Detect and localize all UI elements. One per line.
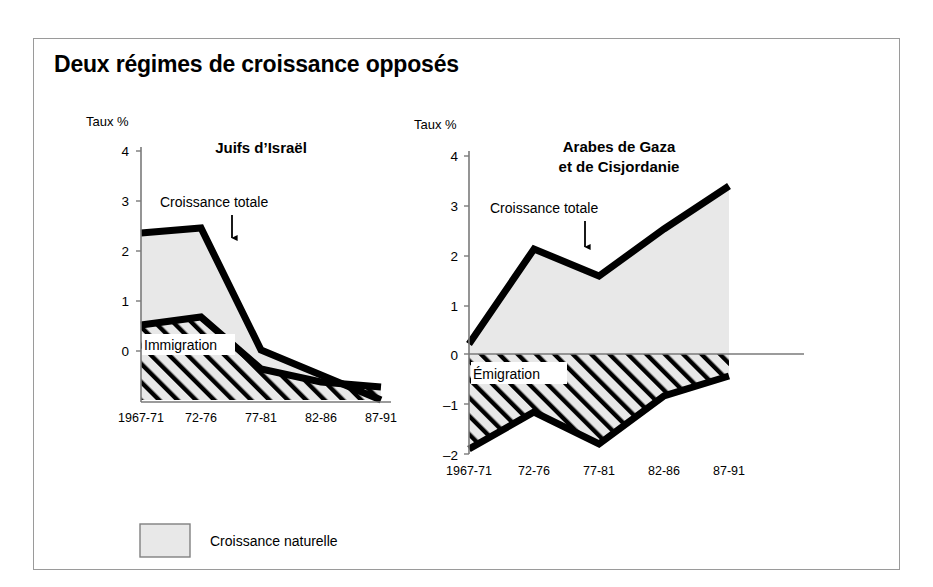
xtick-right-4: 87-91 (713, 464, 745, 478)
annotation-immigration-left: Immigration (144, 337, 217, 353)
y-axis-label-left: Taux % (86, 114, 129, 129)
ytick-right-4: 4 (450, 149, 458, 164)
chart-legend: Croissance naturelle (140, 524, 338, 557)
legend-label-natural-growth: Croissance naturelle (210, 533, 338, 549)
xtick-right-1: 72-76 (518, 464, 550, 478)
ytick-right-3: 3 (450, 199, 458, 214)
xtick-left-4: 87-91 (365, 411, 397, 425)
ytick-right-2: 2 (450, 249, 458, 264)
xtick-right-3: 82-86 (648, 464, 680, 478)
ytick-right-neg2: –2 (443, 448, 458, 463)
ytick-right-1: 1 (450, 299, 458, 314)
panel-juifs-israel: 4 3 2 1 0 Taux % Juifs d’Israël Croissan… (86, 114, 397, 425)
panel-title-right-line1: Arabes de Gaza (563, 138, 676, 155)
y-axis-label-right: Taux % (414, 117, 457, 132)
xtick-left-1: 72-76 (185, 411, 217, 425)
xtick-left-0: 1967-71 (118, 411, 164, 425)
ytick-right-neg1: –1 (443, 398, 458, 413)
ytick-left-1: 1 (121, 294, 129, 309)
xtick-left-2: 77-81 (245, 411, 277, 425)
annotation-total-growth-left: Croissance totale (160, 194, 268, 210)
panel-title-right-line2: et de Cisjordanie (559, 158, 680, 175)
ytick-left-0: 0 (121, 344, 129, 359)
legend-swatch-natural-growth (140, 524, 190, 557)
annotation-total-growth-right: Croissance totale (490, 200, 598, 216)
ytick-left-4: 4 (121, 144, 129, 159)
ytick-right-0: 0 (450, 348, 458, 363)
xtick-right-2: 77-81 (583, 464, 615, 478)
ytick-left-2: 2 (121, 244, 129, 259)
xtick-left-3: 82-86 (305, 411, 337, 425)
ytick-left-3: 3 (121, 194, 129, 209)
annotation-emigration-right: Émigration (473, 366, 540, 382)
chart-canvas: 4 3 2 1 0 Taux % Juifs d’Israël Croissan… (34, 39, 901, 571)
chart-figure: Deux régimes de croissance opposés (33, 38, 900, 570)
panel-arabes-gaza: 4 3 2 1 0 –1 –2 Taux % Arabes de Gaza et… (414, 117, 804, 478)
xtick-right-0: 1967-71 (446, 464, 492, 478)
panel-title-left: Juifs d’Israël (215, 139, 307, 156)
